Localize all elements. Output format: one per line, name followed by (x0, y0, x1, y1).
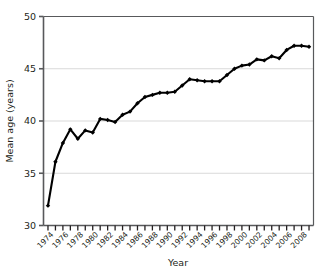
x-axis-title: Year (167, 257, 188, 268)
y-tick-label-50: 50 (24, 11, 36, 22)
y-tick-label-45: 45 (24, 63, 36, 74)
mean-age-line-chart: 3035404550 19741976197819801982198419861… (0, 0, 330, 275)
y-tick-label-40: 40 (24, 115, 36, 126)
y-axis-title: Mean age (years) (4, 79, 15, 162)
chart-figure: 3035404550 19741976197819801982198419861… (0, 0, 330, 275)
y-tick-label-30: 30 (24, 220, 36, 231)
y-tick-label-35: 35 (24, 168, 36, 179)
